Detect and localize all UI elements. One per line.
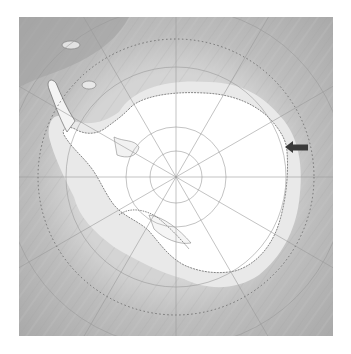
antarctica-map [19,17,333,336]
map-canvas [19,17,333,336]
island-south-georgia [82,81,96,89]
island-falklands [62,41,80,49]
